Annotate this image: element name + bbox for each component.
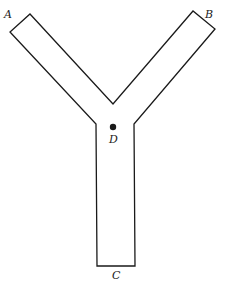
label-c: C [112,269,121,282]
label-d: D [108,133,118,146]
label-a: A [3,8,12,21]
point-d-dot [110,124,116,130]
label-b: B [204,8,213,21]
y-channel-diagram: A B D C [0,0,226,282]
